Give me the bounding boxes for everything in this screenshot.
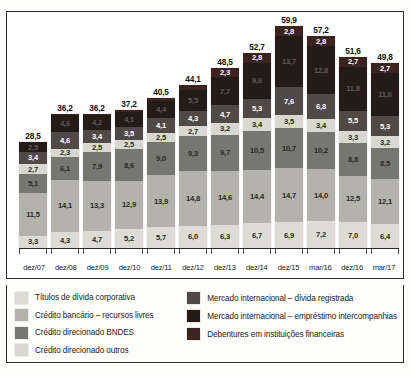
bar-stack: 4,64,62,36,114,14,3: [51, 114, 79, 248]
bar-segment: 11,6: [371, 73, 399, 116]
bar-segment: 11,5: [19, 193, 47, 236]
legend-swatch-icon: [15, 292, 28, 304]
axis-tick: [275, 249, 276, 254]
bar-segment: 4,3: [179, 111, 207, 127]
bar-segment: 13,3: [83, 181, 111, 230]
axis-tick: [302, 249, 303, 254]
tick-pair: [275, 249, 303, 254]
legend-swatch-icon: [187, 310, 200, 322]
legend-item[interactable]: Mercado internacional – empréstimo inter…: [187, 308, 397, 324]
bar-segment: 2,5: [83, 143, 111, 152]
legend-item[interactable]: Mercado internacional – dívida registrad…: [187, 290, 397, 306]
bar-stack: 2,813,77,63,510,714,76,9: [275, 26, 303, 248]
bar-column: 28,52,53,42,75,111,53,3: [19, 131, 47, 248]
bar-segment: 7,7: [211, 77, 239, 106]
bar-segment: 5,5: [339, 111, 367, 131]
x-axis-ticks: [19, 249, 399, 254]
tick-pair: [211, 249, 239, 254]
axis-tick: [19, 249, 20, 254]
bar-segment: 9,0: [147, 142, 175, 175]
tick-pair: [83, 249, 111, 254]
x-tick-label: dez/14: [242, 263, 272, 272]
bar-segment: 9,7: [211, 135, 239, 171]
bar-segment: 14,4: [243, 170, 271, 223]
bar-segment: 14,8: [179, 171, 207, 226]
bar-segment: 6,0: [179, 226, 207, 248]
bar-total-label: 36,2: [57, 103, 72, 113]
tick-pair: [339, 249, 367, 254]
tick-pair: [179, 249, 207, 254]
legend-item[interactable]: Crédito direcionado outros: [15, 343, 177, 359]
bar-segment: 10,2: [307, 132, 335, 170]
axis-tick: [142, 249, 143, 254]
tick-pair: [115, 249, 143, 254]
tick-pair: [19, 249, 47, 254]
bar-segment: 4,6: [51, 115, 79, 132]
bar-segment: 4,3: [51, 232, 79, 248]
chart-page: 28,52,53,42,75,111,53,336,24,64,62,36,11…: [0, 0, 411, 377]
bar-segment: 4,7: [211, 105, 239, 122]
bar-segment: 8,6: [115, 149, 143, 181]
bar-segment: 3,4: [243, 118, 271, 131]
bar-column: 36,24,64,62,36,114,14,3: [51, 103, 79, 248]
axis-tick: [211, 249, 212, 254]
bar-segment: 3,4: [19, 152, 47, 165]
axis-tick: [46, 249, 47, 254]
tick-pair: [243, 249, 271, 254]
legend-item-label: Mercado internacional – empréstimo inter…: [207, 312, 397, 321]
bar-segment: 3,3: [19, 236, 47, 248]
bar-segment: 10,5: [243, 131, 271, 170]
legend-item[interactable]: Crédito bancário – recursos livres: [15, 308, 177, 324]
bar-segment: 2,3: [211, 68, 239, 77]
bar-segment: 12,9: [115, 181, 143, 229]
x-tick-label: dez/07: [19, 263, 49, 272]
bar-segment: 3,5: [115, 127, 143, 140]
bar-segment: 6,9: [275, 222, 303, 248]
bar-total-label: 48,5: [217, 57, 232, 67]
bar-segment: 2,8: [307, 36, 335, 46]
x-tick-label: mar/17: [369, 263, 399, 272]
bar-column: 36,24,23,42,57,913,34,7: [83, 103, 111, 248]
legend-item[interactable]: Debentures em instituições financeiras: [187, 326, 397, 342]
bar-total-label: 51,6: [345, 46, 360, 56]
bar-stack: 2,711,85,53,38,812,57,0: [339, 57, 367, 248]
axis-tick: [334, 249, 335, 254]
bar-segment: 5,7: [147, 227, 175, 248]
tick-pair: [147, 249, 175, 254]
legend-swatch-icon: [15, 309, 28, 321]
bar-total-label: 28,5: [25, 131, 40, 141]
x-tick-label: dez/10: [114, 263, 144, 272]
legend-item[interactable]: Títulos de dívida corporativa: [15, 290, 177, 306]
bar-segment: 6,4: [371, 224, 399, 248]
bar-segment: 2,7: [179, 126, 207, 136]
bar-segment: 12,5: [339, 176, 367, 222]
axis-tick: [115, 249, 116, 254]
legend-column-left: Títulos de dívida corporativaCrédito ban…: [15, 290, 177, 358]
bar-segment: 3,2: [211, 123, 239, 135]
axis-tick: [339, 249, 340, 254]
x-tick-label: dez/12: [178, 263, 208, 272]
bar-column: 44,15,54,32,79,314,86,0: [179, 74, 207, 248]
x-axis-labels: dez/07dez/08dez/09dez/10dez/11dez/12dez/…: [19, 263, 399, 272]
axis-tick: [83, 249, 84, 254]
legend-item-label: Crédito direcionado outros: [35, 346, 128, 355]
legend-item[interactable]: Crédito direcionado BNDES: [15, 325, 177, 341]
bar-segment: 2,5: [19, 142, 47, 151]
bar-segment: 12,1: [371, 179, 399, 224]
bar-segment: 9,6: [243, 63, 271, 99]
bar-segment: 13,9: [147, 175, 175, 227]
bar-segment: 2,8: [243, 53, 271, 63]
axis-tick: [110, 249, 111, 254]
bar-column: 52,72,89,65,33,410,514,46,7: [243, 42, 271, 248]
bar-total-label: 57,2: [313, 25, 328, 35]
bar-segment: 3,4: [307, 119, 335, 132]
x-tick-label: dez/08: [51, 263, 81, 272]
bar-segment: 4,1: [115, 112, 143, 127]
bar-segment: 7,2: [307, 221, 335, 248]
bar-segment: 2,7: [371, 63, 399, 73]
axis-tick: [174, 249, 175, 254]
bar-segment: 14,0: [307, 169, 335, 221]
legend-item-label: Crédito bancário – recursos livres: [35, 311, 154, 320]
bar-segment: 11,8: [339, 67, 367, 111]
bar-total-label: 49,8: [377, 52, 392, 62]
